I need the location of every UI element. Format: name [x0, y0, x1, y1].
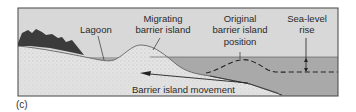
label-lagoon: Lagoon [80, 24, 112, 35]
label-original-1: Original [224, 13, 257, 24]
barrier-island-diagram: Lagoon Migrating barrier island Original… [0, 0, 356, 112]
label-original-3: position [224, 36, 257, 47]
label-migrating-1: Migrating [143, 13, 182, 24]
panel-label: (c) [16, 99, 28, 110]
label-sealevel-2: rise [299, 24, 314, 35]
label-original-2: barrier island [213, 24, 268, 35]
label-sealevel-1: Sea-level [287, 13, 327, 24]
label-migrating-2: barrier island [136, 24, 191, 35]
label-movement: Barrier island movement [132, 84, 235, 95]
